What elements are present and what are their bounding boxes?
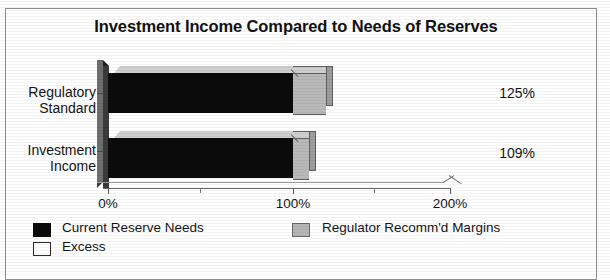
- legend-label-current-reserve-needs: Current Reserve Needs: [62, 220, 204, 235]
- bar-investment-income: [108, 138, 309, 178]
- bar-regulatory-standard-right-face: [326, 66, 333, 106]
- value-label-investment-income: 109%: [465, 145, 535, 161]
- bar-regulatory-standard-top-face: [114, 66, 332, 73]
- chart-legend: Current Reserve Needs Excess Regulator R…: [0, 220, 592, 266]
- y-axis-label-regulatory-standard: Regulatory Standard: [0, 84, 96, 116]
- y-label-line-2: Income: [0, 158, 96, 174]
- bar-segment-regulator-margins: [293, 73, 326, 115]
- y-label-line-2: Standard: [0, 100, 96, 116]
- legend-label-regulator-margins: Regulator Recomm'd Margins: [322, 220, 500, 235]
- y-tick-investment-income: [97, 151, 104, 152]
- bar-investment-income-top-face: [114, 131, 315, 138]
- x-tick-200: [450, 188, 451, 194]
- legend-swatch-gray: [292, 223, 310, 237]
- x-tick-0: [108, 188, 109, 194]
- x-axis-line: [103, 188, 450, 189]
- bar-regulatory-standard: [108, 73, 326, 113]
- x-tick-50: [200, 188, 201, 193]
- bar-investment-income-top-edge: [293, 131, 316, 132]
- x-axis-back-line: [97, 182, 444, 183]
- bar-regulatory-standard-top-edge: [293, 66, 333, 67]
- bar-segment-current-reserve-needs: [108, 73, 293, 113]
- y-axis-label-investment-income: Investment Income: [0, 142, 96, 174]
- bar-segment-regulator-margins: [293, 138, 309, 180]
- x-tick-label-100: 100%: [258, 196, 328, 211]
- y-label-line-1: Investment: [0, 142, 96, 158]
- y-tick-regulatory-standard: [97, 93, 104, 94]
- value-label-regulatory-standard: 125%: [465, 85, 535, 101]
- bar-segment-current-reserve-needs: [108, 138, 293, 178]
- legend-swatch-black: [33, 223, 51, 237]
- legend-swatch-white: [33, 242, 51, 256]
- bar-investment-income-right-face: [309, 131, 316, 171]
- x-tick-label-200: 200%: [415, 196, 485, 211]
- legend-label-excess: Excess: [62, 239, 106, 254]
- x-tick-150: [374, 188, 375, 193]
- y-label-line-1: Regulatory: [0, 84, 96, 100]
- x-tick-label-0: 0%: [73, 196, 143, 211]
- x-tick-100: [293, 188, 294, 194]
